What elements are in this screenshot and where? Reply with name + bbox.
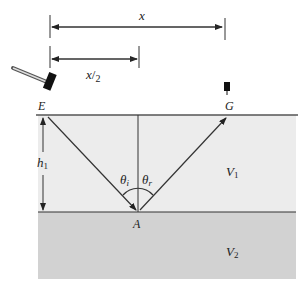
dimension-half-x: x/2 — [50, 46, 139, 84]
label-half-x: x/2 — [85, 67, 100, 84]
label-reflection-point-a: A — [132, 217, 141, 231]
layer-2 — [38, 212, 296, 279]
geophone-icon — [224, 82, 230, 95]
layer-1 — [38, 115, 296, 212]
label-x: x — [138, 8, 145, 23]
dimension-x: x — [50, 8, 225, 40]
seismic-diagram: x x/2 E G h1 θi θr A V1 V2 — [0, 0, 305, 287]
sledgehammer-icon — [13, 68, 57, 91]
label-receiver-g: G — [225, 99, 234, 113]
label-source-e: E — [37, 99, 46, 113]
